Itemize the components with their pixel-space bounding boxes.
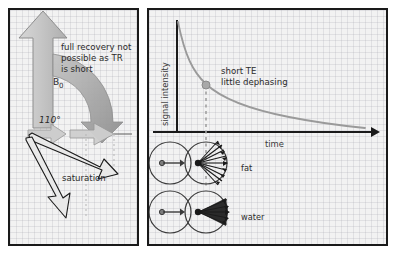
water-label: water [241,213,264,223]
x-axis-arrowhead-icon [371,127,380,137]
saturation-panel: B0 full recovery not possible as TR is s… [8,8,139,246]
dephasing-diagram [149,10,386,244]
y-axis-label: signal intensity [161,62,171,126]
x-axis-label: time [265,140,284,150]
short-te-annotation-line-1: short TE [221,66,257,76]
tr-note-line-1: full recovery not [61,42,131,52]
fat-spin-fan [198,141,227,185]
tr-note-line-3: is short [61,64,93,74]
b0-label: B0 [30,66,64,100]
flip-angle-label: 110° [39,115,61,126]
fat-label: fat [241,164,252,174]
signal-decay-chart [153,20,380,186]
dephasing-panel: signal intensity time short TE little de… [147,8,388,246]
saturation-label: saturation [62,173,106,183]
tr-note-line-2: possible as TR [61,53,123,63]
short-te-annotation-line-2: little dephasing [221,77,288,87]
water-dephased-circle [185,191,230,233]
short-te-marker [202,81,210,89]
figure-root: B0 full recovery not possible as TR is s… [0,0,395,254]
